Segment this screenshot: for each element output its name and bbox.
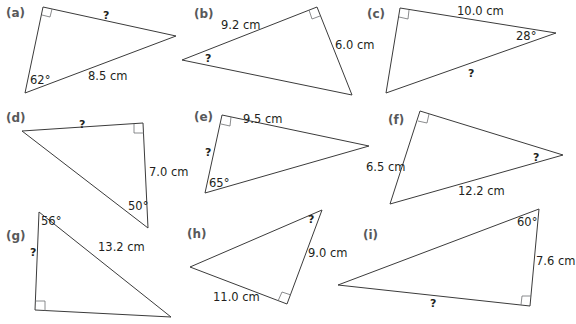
unknown-marker: ? xyxy=(533,151,539,164)
part-label-f: (f) xyxy=(388,113,404,127)
right-angle-marker xyxy=(134,124,144,133)
triangle-e-outline xyxy=(205,115,369,193)
side-label: 8.5 cm xyxy=(88,69,127,83)
right-angle-marker xyxy=(42,9,52,17)
part-label-c: (c) xyxy=(367,7,385,21)
unknown-marker: ? xyxy=(430,297,436,310)
triangle-a: (a) ? 8.5 cm 62° xyxy=(6,6,176,93)
side-label: 11.0 cm xyxy=(213,290,260,304)
part-label-b: (b) xyxy=(194,7,214,21)
unknown-marker: ? xyxy=(468,67,474,80)
angle-label: 60° xyxy=(517,215,537,229)
unknown-marker: ? xyxy=(205,146,211,159)
part-label-a: (a) xyxy=(6,6,25,20)
side-label: 7.6 cm xyxy=(536,254,575,268)
angle-label: 50° xyxy=(128,199,148,213)
side-label: 9.5 cm xyxy=(243,112,282,126)
unknown-marker: ? xyxy=(308,213,314,226)
side-label: 9.2 cm xyxy=(221,18,260,32)
side-label: 7.0 cm xyxy=(149,165,188,179)
triangle-i: (i) 60° 7.6 cm ? xyxy=(338,209,575,310)
unknown-marker: ? xyxy=(79,118,85,131)
triangle-i-outline xyxy=(338,209,539,306)
triangle-d: (d) ? 7.0 cm 50° xyxy=(6,111,188,228)
right-angle-marker xyxy=(418,114,429,123)
right-angle-marker xyxy=(221,117,231,126)
angle-label: 62° xyxy=(30,73,50,87)
angle-label: 28° xyxy=(516,29,536,43)
unknown-marker: ? xyxy=(103,9,109,22)
right-angle-marker xyxy=(521,296,531,305)
part-label-d: (d) xyxy=(6,111,26,125)
side-label: 6.5 cm xyxy=(366,160,405,174)
side-label: 10.0 cm xyxy=(457,4,504,18)
angle-label: 65° xyxy=(209,176,229,190)
part-label-h: (h) xyxy=(187,227,207,241)
triangle-b: (b) 9.2 cm ? 6.0 cm xyxy=(182,7,374,95)
triangle-c-outline xyxy=(386,8,556,93)
triangle-g: (g) 56° 13.2 cm ? xyxy=(6,212,171,317)
side-label: 6.0 cm xyxy=(335,38,374,52)
angle-label: 56° xyxy=(41,214,61,228)
side-label: 13.2 cm xyxy=(98,240,145,254)
side-label: 9.0 cm xyxy=(308,246,347,260)
triangle-exercise-figure: (a) ? 8.5 cm 62° (b) 9.2 cm ? 6.0 cm (c)… xyxy=(0,0,576,324)
right-angle-marker xyxy=(399,10,409,19)
triangle-h: (h) ? 9.0 cm 11.0 cm xyxy=(187,210,347,304)
side-label: 12.2 cm xyxy=(458,184,505,198)
part-label-e: (e) xyxy=(194,110,213,124)
unknown-marker: ? xyxy=(205,52,211,65)
triangle-e: (e) 9.5 cm ? 65° xyxy=(194,110,369,193)
part-label-i: (i) xyxy=(363,228,378,242)
part-label-g: (g) xyxy=(6,229,26,243)
right-angle-marker xyxy=(35,301,45,311)
unknown-marker: ? xyxy=(30,246,36,259)
triangle-f: (f) 6.5 cm ? 12.2 cm xyxy=(366,111,563,204)
triangle-c: (c) 10.0 cm 28° ? xyxy=(367,4,556,93)
